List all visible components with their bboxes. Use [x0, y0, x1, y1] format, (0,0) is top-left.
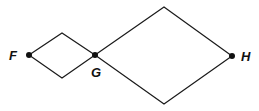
edge-g-h-upper	[95, 7, 232, 56]
edge-f-g-lower	[29, 55, 95, 78]
labels: F G H	[9, 48, 251, 80]
node-f	[26, 52, 32, 58]
label-g: G	[91, 65, 101, 80]
diagram-canvas: F G H	[0, 0, 259, 111]
edges	[29, 7, 232, 104]
label-h: H	[241, 49, 251, 64]
nodes	[26, 52, 235, 59]
node-g	[92, 52, 98, 58]
edge-g-h-lower	[95, 55, 232, 104]
label-f: F	[9, 48, 18, 63]
node-h	[229, 53, 235, 59]
edge-f-g-upper	[29, 33, 95, 55]
